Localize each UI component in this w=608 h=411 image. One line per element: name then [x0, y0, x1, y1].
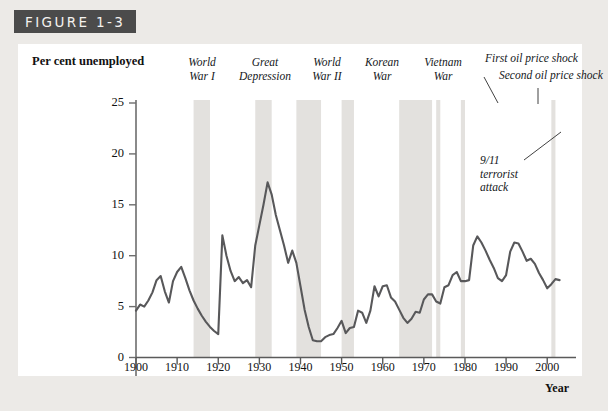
annotation-world-war-i: World War I [173, 56, 231, 83]
annotation-great-depression: Great Depression [225, 56, 305, 83]
x-tick-label: 1990 [494, 360, 518, 375]
event-band [342, 100, 354, 358]
x-tick-label: 1980 [453, 360, 477, 375]
event-band [194, 100, 210, 358]
event-bands [194, 100, 556, 358]
x-tick-label: 1940 [288, 360, 312, 375]
annotation-vietnam-war: Vietnam War [413, 56, 473, 83]
x-tick-label: 1950 [330, 360, 354, 375]
event-band [436, 100, 440, 358]
y-tick-label: 0 [94, 350, 124, 365]
x-tick-label: 1970 [412, 360, 436, 375]
x-tick-label: 1920 [206, 360, 230, 375]
event-band [296, 100, 321, 358]
y-tick-label: 20 [94, 146, 124, 161]
y-tick-label: 5 [94, 299, 124, 314]
x-tick-label: 2000 [535, 360, 559, 375]
annotation-world-war-ii: World War II [299, 56, 355, 83]
figure-banner: FIGURE 1-3 [14, 10, 136, 33]
y-tick-label: 25 [94, 95, 124, 110]
x-tick-label: 1900 [124, 360, 148, 375]
x-axis-title: Year [545, 381, 569, 396]
x-tick-label: 1960 [371, 360, 395, 375]
annotation-911-terrorist-attack: 9/11 terrorist attack [480, 154, 550, 195]
event-band [461, 100, 465, 358]
figure-banner-label: FIGURE 1-3 [14, 14, 125, 30]
leader-line-first-oil-shock [484, 77, 498, 103]
y-tick-label: 10 [94, 248, 124, 263]
annotation-first-oil-price-shock: First oil price shock [485, 52, 608, 66]
chart-canvas: Per cent unemployed Year 0510152025 1900… [18, 44, 582, 376]
y-tick-label: 15 [94, 197, 124, 212]
x-tick-label: 1910 [165, 360, 189, 375]
annotation-korean-war: Korean War [354, 56, 410, 83]
x-tick-label: 1930 [247, 360, 271, 375]
annotation-second-oil-price-shock: Second oil price shock [499, 69, 608, 83]
